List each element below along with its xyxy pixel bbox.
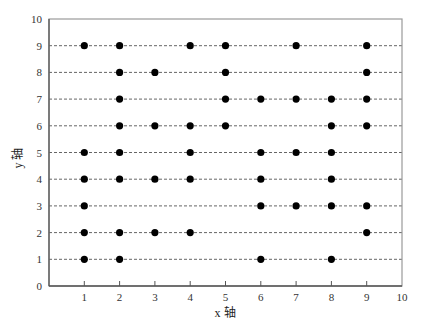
grid-lines [49,46,402,260]
data-point [116,176,123,183]
data-point [257,149,264,156]
y-tick-label: 7 [37,93,43,105]
y-tick-label: 9 [37,40,43,52]
x-tick-label: 1 [82,291,88,303]
data-point [222,122,229,129]
y-axis-label: y 轴 [10,148,25,169]
data-point [328,176,335,183]
data-point [187,42,194,49]
data-point [81,176,88,183]
data-point [363,229,370,236]
data-point [116,69,123,76]
data-point [187,229,194,236]
data-point [293,42,300,49]
x-tick-label: 4 [187,291,193,303]
y-tick-label: 5 [37,147,43,159]
data-point [116,229,123,236]
data-point [363,42,370,49]
x-tick-label: 5 [223,291,229,303]
scatter-chart: 12345678910 012345678910 x 轴 y 轴 [0,0,423,330]
data-point [151,69,158,76]
data-point [363,69,370,76]
data-point [151,229,158,236]
data-point [293,96,300,103]
y-tick-label: 0 [37,280,43,292]
data-point [293,149,300,156]
y-tick-label: 6 [37,120,43,132]
data-point [116,149,123,156]
data-point [257,96,264,103]
data-point [222,96,229,103]
data-point [363,202,370,209]
y-ticks: 012345678910 [31,13,43,292]
data-point [328,202,335,209]
data-point [328,149,335,156]
x-tick-label: 9 [364,291,370,303]
y-tick-label: 1 [37,253,43,265]
data-point [116,256,123,263]
y-tick-label: 4 [37,173,43,185]
data-point [81,256,88,263]
data-point [187,122,194,129]
data-point [187,176,194,183]
data-point [81,202,88,209]
y-tick-label: 2 [37,227,43,239]
data-point [151,122,158,129]
x-tick-label: 2 [117,291,123,303]
x-tick-label: 10 [397,291,409,303]
x-tick-label: 6 [258,291,264,303]
data-point [328,122,335,129]
data-point [116,42,123,49]
data-point [257,256,264,263]
data-point [257,176,264,183]
data-point [81,229,88,236]
data-point [328,256,335,263]
x-tick-label: 3 [152,291,158,303]
data-point [116,122,123,129]
x-tick-label: 7 [293,291,299,303]
y-tick-label: 10 [31,13,43,25]
x-tick-label: 8 [329,291,335,303]
data-point [116,96,123,103]
y-tick-label: 8 [37,66,43,78]
data-point [151,176,158,183]
data-point [81,42,88,49]
data-point [81,149,88,156]
x-axis-label: x 轴 [215,305,236,320]
y-tick-label: 3 [37,200,43,212]
data-point [293,202,300,209]
x-ticks: 12345678910 [82,281,408,303]
data-point [363,96,370,103]
data-point [328,96,335,103]
data-point [187,149,194,156]
data-point [222,42,229,49]
data-point [257,202,264,209]
data-point [363,122,370,129]
data-point [222,69,229,76]
